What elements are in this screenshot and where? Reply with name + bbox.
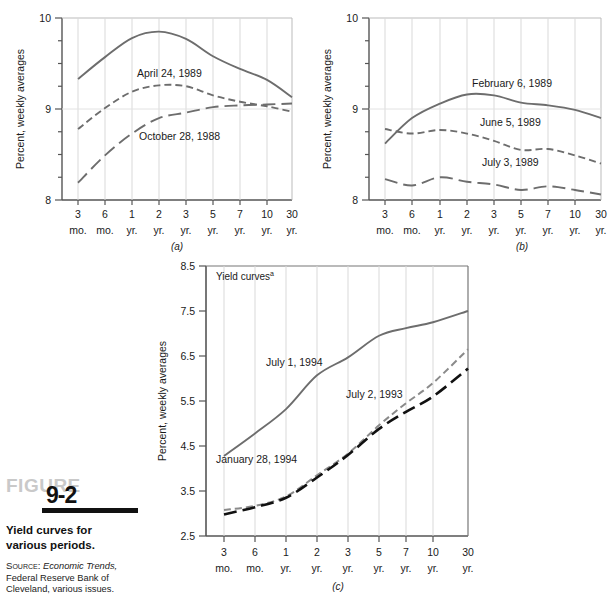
chart-c-yticks	[199, 266, 206, 536]
x-bottom-label: yr.	[427, 562, 438, 574]
chart-a-ytick-label: 8	[45, 194, 51, 206]
x-bottom-label: yr.	[126, 224, 137, 236]
figure-source-note: Source: Economic Trends, Federal Reserve…	[6, 560, 136, 596]
x-bottom-label: yr.	[462, 562, 473, 574]
figure-number: 9-2	[46, 482, 76, 509]
x-bottom-label: mo.	[96, 224, 114, 236]
chart-panel-c: 8.5 7.5 6.5 5.5 4.5 3.5 2.5 Percent, wee…	[148, 258, 493, 596]
x-top-label: 3	[345, 546, 351, 558]
x-top-label: 3	[183, 208, 189, 220]
x-bottom-label: mo.	[376, 224, 394, 236]
chart-c-axes	[206, 266, 468, 536]
chart-a-series	[78, 32, 292, 183]
series-annotation-january-28-1994: January 28, 1994	[216, 453, 297, 465]
chart-c-svg: 8.5 7.5 6.5 5.5 4.5 3.5 2.5 Percent, wee…	[148, 258, 493, 596]
x-top-label: 10	[569, 208, 581, 220]
chart-a-svg: 10 9 8 Percent, weekly averages 3 6 1	[0, 4, 305, 254]
x-top-label: 30	[462, 546, 474, 558]
x-top-label: 6	[252, 546, 258, 558]
chart-panel-a: 10 9 8 Percent, weekly averages 3 6 1	[0, 4, 305, 254]
chart-c-inner-title: Yield curvesa	[216, 270, 274, 282]
chart-c-ytick-label: 4.5	[180, 440, 195, 452]
series-annotation-october-28-1988: October 28, 1988	[139, 130, 220, 142]
x-bottom-label: mo.	[215, 562, 233, 574]
series-annotation-april-24-1989: April 24, 1989	[137, 67, 202, 79]
chart-c-series	[224, 311, 468, 514]
x-bottom-label: mo.	[246, 562, 264, 574]
series-line-unnamed-2	[78, 104, 292, 183]
chart-b-svg: 10 9 8 Percent, weekly averages 3 6 1 2 …	[307, 4, 615, 254]
x-bottom-label: yr.	[595, 224, 606, 236]
x-top-label: 5	[210, 208, 216, 220]
x-bottom-label: yr.	[153, 224, 164, 236]
x-top-label: 2	[156, 208, 162, 220]
x-bottom-label: yr.	[286, 224, 297, 236]
figure-caption-block: FIGURE 9-2 Yield curves for various peri…	[4, 478, 144, 596]
chart-c-ytick-label: 8.5	[180, 260, 195, 272]
series-line-april-24-1989	[78, 32, 292, 98]
x-top-label: 1	[129, 208, 135, 220]
chart-b-xticks	[385, 200, 575, 205]
source-rest: Federal Reserve Bank of Cleveland, vario…	[6, 573, 114, 595]
series-annotation-february-6-1989: February 6, 1989	[472, 77, 552, 89]
chart-a-yticks	[55, 18, 62, 200]
chart-c-ytick-label: 5.5	[180, 395, 195, 407]
figure-caption-title: Yield curves for various periods.	[6, 523, 134, 553]
figure-number-row: 9-2	[4, 484, 144, 510]
x-bottom-label: yr.	[461, 224, 472, 236]
x-top-label: 7	[403, 546, 409, 558]
x-bottom-label: mo.	[69, 224, 87, 236]
x-top-label: 6	[102, 208, 108, 220]
x-bottom-label: yr.	[311, 562, 322, 574]
x-bottom-label: yr.	[515, 224, 526, 236]
series-annotation-july-3-1989: July 3, 1989	[482, 156, 539, 168]
chart-c-ytick-label: 7.5	[180, 305, 195, 317]
x-top-label: 3	[75, 208, 81, 220]
panel-label-a: (a)	[171, 241, 183, 252]
panel-label-b: (b)	[516, 241, 528, 252]
figure-rule	[42, 508, 138, 513]
x-bottom-label: yr.	[373, 562, 384, 574]
x-top-label: 3	[221, 546, 227, 558]
chart-a-ytick-label: 9	[45, 103, 51, 115]
x-top-label: 30	[595, 208, 607, 220]
x-top-label: 1	[437, 208, 443, 220]
x-top-label: 30	[286, 208, 298, 220]
figure-root: 10 9 8 Percent, weekly averages 3 6 1	[0, 0, 615, 596]
x-bottom-label: yr.	[180, 224, 191, 236]
x-top-label: 10	[261, 208, 273, 220]
chart-a-ytick-label: 10	[39, 12, 51, 24]
series-annotation-june-5-1989: June 5, 1989	[480, 116, 541, 128]
chart-a-xlabels: 3 6 1 2 3 5 7 10 30 mo. mo. yr. yr. yr. …	[69, 208, 298, 236]
chart-b-ytick-label: 9	[352, 103, 358, 115]
x-top-label: 1	[283, 546, 289, 558]
chart-c-gridlines	[224, 266, 433, 536]
chart-b-ytick-label: 10	[346, 12, 358, 24]
x-bottom-label: yr.	[280, 562, 291, 574]
x-bottom-label: yr.	[569, 224, 580, 236]
x-top-label: 6	[409, 208, 415, 220]
x-top-label: 5	[376, 546, 382, 558]
source-label: Source:	[6, 560, 40, 571]
x-top-label: 5	[518, 208, 524, 220]
x-bottom-label: yr.	[434, 224, 445, 236]
series-line-october-28-1988	[78, 85, 292, 129]
x-top-label: 7	[545, 208, 551, 220]
chart-c-ytick-label: 2.5	[180, 530, 195, 542]
x-bottom-label: yr.	[342, 562, 353, 574]
chart-b-ytick-label: 8	[352, 194, 358, 206]
x-bottom-label: yr.	[234, 224, 245, 236]
chart-b-xlabels: 3 6 1 2 3 5 7 10 30 mo. mo. yr. yr. yr. …	[376, 208, 607, 236]
chart-c-ylabel: Percent, weekly averages	[156, 341, 168, 461]
chart-a-ylabel: Percent, weekly averages	[14, 49, 26, 169]
x-bottom-label: yr.	[207, 224, 218, 236]
x-top-label: 7	[237, 208, 243, 220]
x-bottom-label: mo.	[403, 224, 421, 236]
chart-b-ylabel: Percent, weekly averages	[321, 49, 333, 169]
x-top-label: 2	[464, 208, 470, 220]
x-bottom-label: yr.	[400, 562, 411, 574]
chart-c-xlabels: 3 6 1 2 3 5 7 10 30 mo. mo. yr. yr. yr. …	[215, 546, 474, 574]
chart-panel-b: 10 9 8 Percent, weekly averages 3 6 1 2 …	[307, 4, 615, 254]
x-bottom-label: yr.	[261, 224, 272, 236]
x-top-label: 3	[382, 208, 388, 220]
